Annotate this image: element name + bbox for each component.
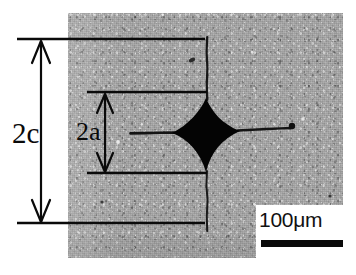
scale-bar-label: 100μm [259,208,322,232]
dimension-2a-label: 2a [76,118,101,146]
radial-crack-up-icon [207,37,208,100]
dark-inclusion-lower-icon [100,200,103,203]
dark-inclusion-upper-icon [188,57,196,64]
figure-root: 2c 2a 100μm [0,0,356,275]
dark-inclusion-far-right-icon [328,194,331,197]
dark-inclusion-right-icon [289,123,295,129]
light-fleck-upper-icon [251,51,254,54]
light-fleck-left-icon [116,140,120,144]
radial-crack-down-icon [206,171,207,231]
light-fleck-right-icon [301,117,305,121]
scale-bar-rule [261,240,343,247]
radial-crack-right-icon [238,128,291,131]
vickers-indent-diamond-shape [172,98,240,172]
radial-crack-left-icon [131,133,175,134]
dimension-2c-label: 2c [12,118,39,148]
